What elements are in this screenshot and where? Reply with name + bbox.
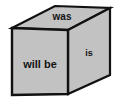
tense-cube-figure: was will be is bbox=[0, 0, 119, 103]
cube-top-face-label: was bbox=[52, 11, 72, 22]
cube-diagram-canvas: was will be is bbox=[0, 0, 119, 103]
cube-front-face-label: will be bbox=[22, 58, 57, 70]
cube-right-face-label: is bbox=[85, 48, 93, 58]
